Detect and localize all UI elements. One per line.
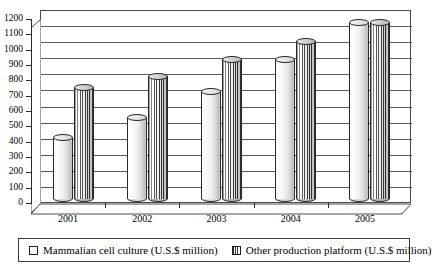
x-axis-label-2003: 2003 bbox=[182, 214, 252, 224]
legend-item-series-a[interactable]: Mammalian cell culture (U.S.$ million) bbox=[29, 245, 218, 256]
cylinder-body bbox=[349, 23, 369, 199]
chart-left-wall bbox=[31, 19, 41, 214]
cylinder-body bbox=[201, 92, 221, 199]
y-axis-tick-label: 400 bbox=[0, 137, 23, 147]
cylinder bbox=[349, 23, 369, 199]
y-axis-tick bbox=[26, 142, 31, 143]
cylinder-body bbox=[370, 23, 390, 199]
y-axis-tick bbox=[26, 188, 31, 189]
cylinder bbox=[296, 41, 316, 199]
y-axis-tick-label: 800 bbox=[0, 75, 23, 85]
x-axis-label-2004: 2004 bbox=[256, 214, 326, 224]
legend-swatch-open-square bbox=[29, 246, 38, 255]
y-axis-tick bbox=[26, 203, 31, 204]
cylinder-body bbox=[74, 87, 94, 199]
y-axis-tick-label: 100 bbox=[0, 183, 23, 193]
bar-2004-series-1 bbox=[275, 59, 295, 199]
bar-2002-series-1 bbox=[127, 118, 147, 199]
cylinder-body bbox=[275, 59, 295, 199]
cylinder-top bbox=[222, 56, 242, 63]
y-axis-tick bbox=[26, 34, 31, 35]
y-axis-tick bbox=[26, 96, 31, 97]
bar-2001-series-2 bbox=[74, 87, 94, 199]
cylinder bbox=[148, 76, 168, 199]
bar-2001-series-1 bbox=[53, 138, 73, 199]
y-axis-tick-label: 0 bbox=[0, 198, 23, 208]
x-axis-label-2005: 2005 bbox=[330, 214, 400, 224]
bar-2005-series-2 bbox=[370, 23, 390, 199]
chart-legend: Mammalian cell culture (U.S.$ million) O… bbox=[18, 238, 410, 262]
x-axis-label-2001: 2001 bbox=[33, 214, 103, 224]
cylinder-body bbox=[296, 41, 316, 199]
cylinder-top bbox=[148, 73, 168, 80]
y-axis-tick-label: 300 bbox=[0, 152, 23, 162]
y-axis-tick-label: 900 bbox=[0, 60, 23, 70]
cylinder-top bbox=[275, 56, 295, 63]
y-axis-tick bbox=[26, 111, 31, 112]
x-axis-tick bbox=[328, 203, 329, 208]
bar-2003-series-1 bbox=[201, 92, 221, 199]
plot-area: 0100200300400500600700800900100011001200… bbox=[0, 0, 427, 232]
y-axis-tick bbox=[26, 172, 31, 173]
legend-item-series-b[interactable]: Other production platform (U.S.$ million… bbox=[232, 245, 432, 256]
y-axis-tick-label: 1000 bbox=[0, 45, 23, 55]
y-axis-tick bbox=[26, 50, 31, 51]
cylinder-body bbox=[148, 76, 168, 199]
cylinder-body bbox=[53, 138, 73, 199]
cylinder-body bbox=[222, 59, 242, 199]
cylinder bbox=[370, 23, 390, 199]
cylinder-body bbox=[127, 118, 147, 199]
y-axis-tick bbox=[26, 80, 31, 81]
legend-label-series-b: Other production platform (U.S.$ million… bbox=[246, 245, 432, 256]
left-wall-shape bbox=[31, 19, 41, 214]
bar-2003-series-2 bbox=[222, 59, 242, 199]
y-axis-tick bbox=[26, 126, 31, 127]
y-axis-tick-label: 600 bbox=[0, 106, 23, 116]
bar-2002-series-2 bbox=[148, 76, 168, 199]
cylinder bbox=[127, 118, 147, 199]
y-axis bbox=[31, 19, 32, 204]
x-axis-tick bbox=[105, 203, 106, 208]
cylinder-top bbox=[53, 134, 73, 141]
cylinder-top bbox=[296, 38, 316, 45]
x-axis-tick bbox=[179, 203, 180, 208]
y-axis-tick-label: 700 bbox=[0, 91, 23, 101]
legend-label-series-a: Mammalian cell culture (U.S.$ million) bbox=[43, 245, 218, 256]
cylinder bbox=[74, 87, 94, 199]
x-axis-label-2002: 2002 bbox=[107, 214, 177, 224]
cylinder bbox=[53, 138, 73, 199]
y-axis-tick-label: 200 bbox=[0, 167, 23, 177]
cylinder bbox=[222, 59, 242, 199]
y-axis-tick bbox=[26, 65, 31, 66]
cylinder-top bbox=[74, 84, 94, 91]
cylinder bbox=[275, 59, 295, 199]
y-axis-tick bbox=[26, 157, 31, 158]
x-axis-tick bbox=[254, 203, 255, 208]
legend-swatch-hatched-square bbox=[232, 246, 241, 255]
y-axis-tick-label: 1200 bbox=[0, 14, 23, 24]
y-axis-tick-label: 1100 bbox=[0, 29, 23, 39]
bar-2004-series-2 bbox=[296, 41, 316, 199]
y-axis-tick bbox=[26, 19, 31, 20]
cylinder bbox=[201, 92, 221, 199]
y-axis-tick-label: 500 bbox=[0, 121, 23, 131]
bar-2005-series-1 bbox=[349, 23, 369, 199]
